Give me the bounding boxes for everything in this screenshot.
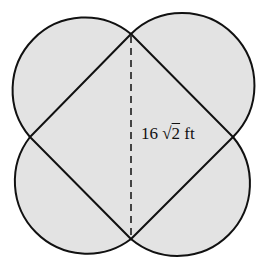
label-unit: ft: [184, 124, 194, 143]
diagonal-length-label: 16 √2 ft: [141, 124, 195, 144]
label-coefficient: 16: [141, 124, 158, 143]
square-with-semicircles: [0, 0, 263, 268]
label-radicand: 2: [172, 124, 181, 143]
shaded-region: [13, 13, 255, 256]
sqrt-symbol: √: [162, 124, 171, 143]
